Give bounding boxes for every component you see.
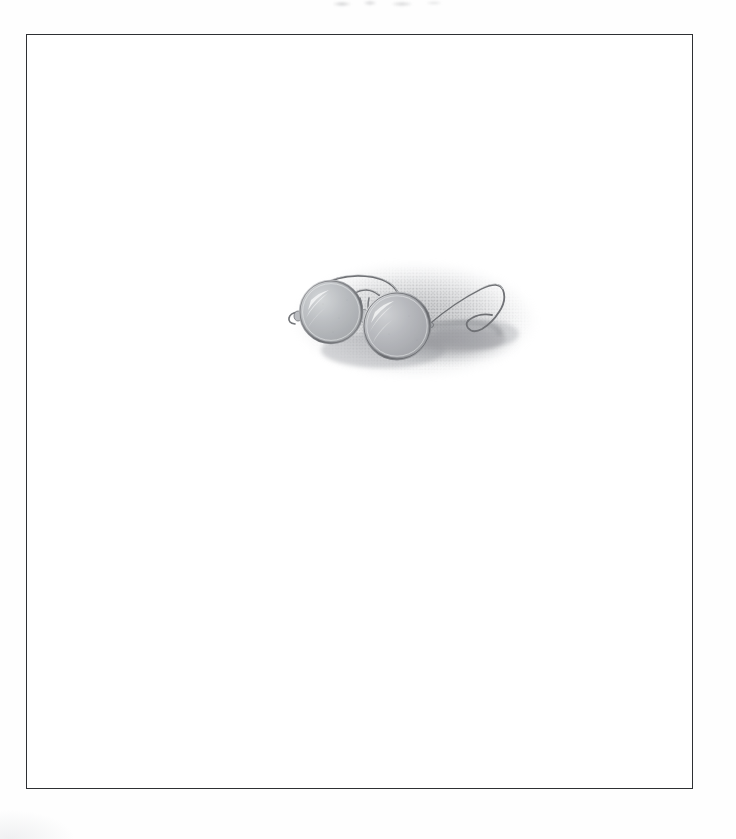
graphite-halo [265, 242, 561, 390]
right-temple-arm [426, 284, 504, 332]
paper-tone-artifact [0, 795, 120, 839]
bridge [353, 289, 379, 323]
cast-shadow [321, 316, 519, 368]
graphite-stipple [323, 300, 418, 351]
temple-shadow [426, 322, 500, 333]
left-lens [300, 281, 362, 345]
plate-border [26, 34, 693, 789]
left-temple-arm [316, 275, 399, 295]
graphite-halo-grain [265, 242, 561, 390]
illustration-page [0, 0, 736, 839]
eyeglasses-drawing [263, 238, 563, 393]
eyeglasses-artwork [263, 238, 563, 393]
scan-smudge-artifact [330, 0, 460, 9]
right-lens [364, 293, 430, 364]
left-endpiece-hinge [289, 311, 302, 324]
